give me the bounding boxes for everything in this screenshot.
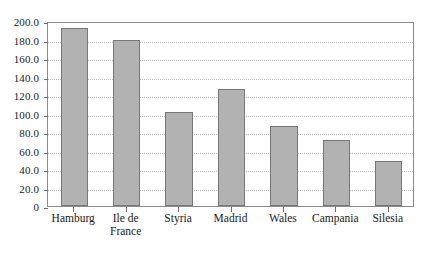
x-axis-category-label: Ile de France [110,212,141,238]
y-axis-tick-label: 180.0 [14,35,39,47]
bar [61,28,88,206]
bar [218,89,245,206]
bar [113,40,140,206]
x-axis-category-label: Wales [269,212,297,225]
y-axis-tick-label: 160.0 [14,53,39,65]
bar [323,140,350,206]
x-axis-category-label: Campania [312,212,359,225]
y-axis-tick-label: 60.0 [19,146,39,158]
bar-chart: 200.0180.0160.0140.0120.0100.080.060.040… [0,0,431,255]
y-axis-tick-label: 20.0 [19,183,39,195]
y-axis-tick-label: 200.0 [14,16,39,28]
bars-layer [48,23,413,206]
x-axis-category-label: Madrid [214,212,248,225]
y-axis-tick-label: 120.0 [14,90,39,102]
y-axis: 200.0180.0160.0140.0120.0100.080.060.040… [0,0,47,255]
y-axis-tick-label: 100.0 [14,109,39,121]
x-axis: HamburgIle de FranceStyriaMadridWalesCam… [47,212,414,255]
x-axis-category-label: Silesia [372,212,403,225]
y-axis-tick-label: 40.0 [19,164,39,176]
y-axis-tick-label: 0 [33,201,39,213]
bar [375,161,402,206]
x-axis-category-label: Hamburg [52,212,95,225]
x-axis-category-label: Styria [164,212,191,225]
bar [165,112,192,206]
bar [270,126,297,206]
plot-area [47,22,414,207]
y-axis-tick-label: 80.0 [19,127,39,139]
y-axis-tick-label: 140.0 [14,72,39,84]
